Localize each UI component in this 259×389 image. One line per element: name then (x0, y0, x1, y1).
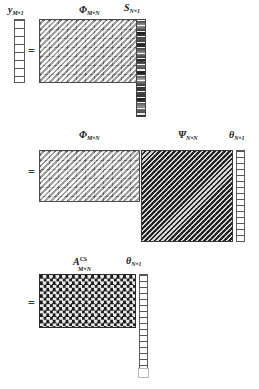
label-theta-subscript: N×1 (234, 135, 244, 141)
label-acs-matrix: ACSM×N (73, 255, 91, 273)
equals-sign-1: = (28, 44, 35, 59)
label-theta-vector: θN×1 (229, 130, 244, 143)
theta-vector-block (236, 150, 245, 242)
label-psi-subscript: N×N (186, 135, 198, 141)
s-vector-block (136, 19, 146, 117)
label-s-subscript: N×1 (130, 8, 140, 14)
phi-matrix-2-block (39, 150, 140, 202)
label-theta-vector-2: θN×1 (126, 256, 141, 269)
figure-caption (8, 378, 251, 387)
phi-matrix-block (39, 19, 140, 83)
label-y-subscript: M×1 (12, 10, 23, 16)
equals-sign-2: = (28, 165, 35, 180)
label-phi2-symbol: Φ (79, 129, 87, 140)
label-theta2-subscript: N×1 (131, 261, 141, 267)
label-psi-symbol: Ψ (178, 129, 186, 140)
label-phi-matrix: ΦM×N (79, 5, 99, 18)
label-phi-subscript: M×N (87, 10, 100, 16)
equals-sign-3: = (28, 296, 35, 311)
label-psi-matrix: ΨN×N (178, 130, 198, 143)
label-phi2-subscript: M×N (87, 135, 100, 141)
label-y-vector: yM×1 (8, 5, 24, 18)
scan-artifact (138, 368, 149, 378)
label-acs-subscript: M×N (78, 265, 91, 273)
label-s-vector: SN×1 (124, 3, 140, 16)
figure-canvas: yM×1 ΦM×N SN×1 = ΦM×N ΨN×N θN×1 = ACSM×N… (0, 0, 259, 389)
acs-matrix-block (39, 274, 136, 328)
theta-vector-2-block (139, 274, 148, 378)
label-acs-superscript: CS (80, 256, 87, 262)
psi-matrix-block (141, 150, 233, 242)
label-phi-matrix-2: ΦM×N (79, 130, 99, 143)
label-phi-symbol: Φ (79, 4, 87, 15)
y-vector-block (14, 19, 25, 83)
